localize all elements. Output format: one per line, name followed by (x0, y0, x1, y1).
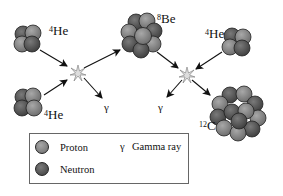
proton-swatch-icon (35, 140, 49, 154)
legend-gamma-label: Gamma ray (132, 141, 181, 152)
arrow-he4-top-to-fusion1 (40, 50, 67, 66)
arrow-fusion2-to-c12 (192, 80, 210, 95)
mass-number: 4 (205, 28, 209, 37)
arrow-be8-to-fusion2 (157, 52, 178, 68)
element-symbol: He (48, 107, 63, 122)
arrow-fusion1-to-be8 (84, 50, 120, 68)
label-he4-right: 4He (205, 27, 224, 40)
element-symbol: C (207, 118, 216, 133)
fusion-star-icon (70, 65, 86, 81)
mass-number: 8 (157, 13, 161, 22)
mass-number: 4 (44, 109, 48, 118)
label-be8: 8Be (157, 12, 175, 25)
reaction-arrows (40, 50, 222, 98)
label-he4-bottom: 4He (44, 108, 63, 121)
legend-gamma-symbol: γ (120, 141, 125, 152)
legend-neutron-label: Neutron (60, 164, 94, 175)
gamma-ray-symbol: γ (158, 102, 163, 113)
legend-proton-label: Proton (60, 142, 88, 153)
element-symbol: Be (161, 11, 175, 26)
nucleus-c12 (210, 86, 266, 141)
nucleus-he4-top (14, 25, 41, 52)
arrow-fusion2-gamma (167, 80, 182, 97)
element-symbol: He (53, 23, 68, 38)
legend: Proton Neutron γ Gamma ray (29, 133, 189, 184)
mass-number: 12 (199, 120, 207, 129)
gamma-ray-symbol: γ (104, 102, 109, 113)
label-he4-top: 4He (49, 24, 68, 37)
label-c12: 12C (199, 119, 216, 132)
element-symbol: He (209, 26, 224, 41)
arrow-he4-right-to-fusion2 (196, 52, 222, 69)
arrow-he4-bottom-to-fusion1 (44, 80, 67, 95)
nucleus-be8 (121, 13, 162, 58)
nucleus-he4-right (222, 28, 251, 56)
mass-number: 4 (49, 25, 53, 34)
arrow-fusion1-gamma (84, 78, 102, 98)
nucleus-he4-bottom (14, 88, 42, 116)
neutron-swatch-icon (35, 162, 49, 176)
